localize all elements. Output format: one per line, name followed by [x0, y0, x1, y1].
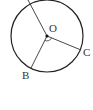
- center-point: [45, 34, 48, 37]
- radius-oa: [28, 0, 47, 36]
- label-c: C: [83, 46, 90, 58]
- radius-ob: [31, 36, 47, 68]
- label-b: B: [22, 69, 29, 81]
- radius-oc: [47, 36, 81, 50]
- circle-diagram: O C B: [0, 0, 93, 110]
- label-o: O: [49, 22, 57, 34]
